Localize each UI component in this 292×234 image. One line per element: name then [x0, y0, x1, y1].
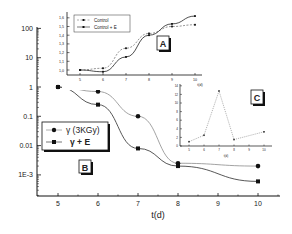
data-point	[256, 179, 260, 183]
data-point	[56, 85, 60, 89]
x-tick-label: 8	[176, 200, 180, 207]
svg-text:1,0: 1,0	[59, 69, 64, 73]
svg-text:C: C	[254, 93, 261, 103]
svg-text:6: 6	[102, 78, 104, 82]
panel-label-c: C	[251, 90, 265, 106]
svg-text:9: 9	[248, 148, 250, 152]
data-point	[136, 146, 140, 150]
svg-text:Control: Control	[94, 18, 109, 23]
y-tick-label: 10	[25, 54, 33, 61]
svg-text:12: 12	[175, 93, 179, 97]
panel-label-b: B	[79, 160, 93, 175]
y-tick-label: 1E-3	[18, 171, 33, 178]
svg-text:B: B	[82, 163, 89, 173]
svg-text:1,4: 1,4	[59, 34, 64, 38]
x-tick-label: 10	[254, 200, 262, 207]
main-legend: γ (3KGy) γ + E	[42, 122, 110, 152]
main-x-axis-label: t(d)	[151, 210, 165, 220]
svg-text:14: 14	[175, 84, 179, 88]
data-point	[136, 114, 141, 119]
x-tick-label: 9	[216, 200, 220, 207]
svg-text:10: 10	[193, 78, 197, 82]
circle-marker-icon	[52, 128, 56, 132]
svg-text:8: 8	[233, 148, 235, 152]
legend-label-gamma: γ (3KGy)	[66, 125, 100, 135]
y-tick-label: 1	[29, 84, 33, 91]
x-tick-label: 5	[56, 200, 60, 207]
svg-text:4: 4	[176, 127, 178, 131]
svg-text:6: 6	[176, 118, 178, 122]
x-tick-label: 7	[136, 200, 140, 207]
svg-text:2: 2	[176, 136, 178, 140]
y-tick-label: 100	[21, 25, 33, 32]
svg-text:10: 10	[175, 101, 179, 105]
svg-text:5: 5	[188, 148, 190, 152]
svg-text:1,6: 1,6	[59, 16, 64, 20]
svg-text:1,1: 1,1	[59, 60, 64, 64]
svg-text:A: A	[160, 39, 167, 49]
svg-text:5: 5	[79, 78, 81, 82]
inset-a: 1,01,11,21,31,41,51,65678910t(d)ControlC…	[59, 8, 204, 90]
data-point	[256, 164, 261, 169]
svg-text:9: 9	[171, 78, 173, 82]
y-tick-label: 0.1	[23, 113, 33, 120]
svg-text:6: 6	[203, 148, 205, 152]
figure: 56789101001010.10.011E-3 1,01,11,21,31,4…	[0, 0, 292, 234]
svg-text:1,5: 1,5	[59, 25, 64, 29]
legend-label-gamma-e: γ + E	[70, 137, 90, 147]
data-point	[96, 103, 100, 107]
square-marker-icon	[52, 140, 56, 144]
svg-text:8: 8	[148, 78, 150, 82]
svg-text:7: 7	[125, 78, 127, 82]
svg-text:7: 7	[218, 148, 220, 152]
data-point	[176, 164, 180, 168]
svg-text:1,3: 1,3	[59, 42, 64, 46]
svg-text:10: 10	[262, 148, 266, 152]
svg-text:1,2: 1,2	[59, 51, 64, 55]
panel-label-a: A	[157, 36, 171, 52]
x-tick-label: 6	[96, 200, 100, 207]
y-tick-label: 0.01	[19, 142, 33, 149]
svg-text:t(d): t(d)	[197, 83, 202, 87]
svg-text:8: 8	[176, 110, 178, 114]
svg-text:0: 0	[176, 144, 178, 148]
svg-text:t(d): t(d)	[224, 154, 229, 158]
svg-text:Control + E: Control + E	[94, 25, 117, 30]
